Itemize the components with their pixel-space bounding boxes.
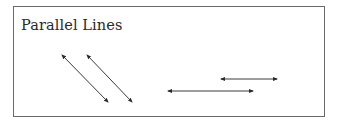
parallel-lines-diagram — [0, 0, 343, 129]
diagonal-line-2 — [87, 55, 132, 102]
diagonal-line-1 — [62, 55, 108, 102]
